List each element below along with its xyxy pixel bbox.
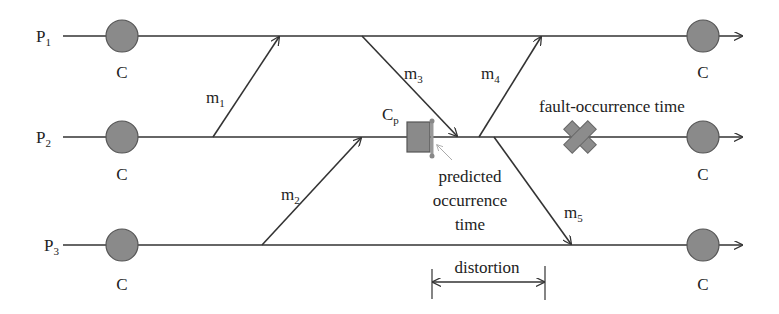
predicted-occurrence-label-line3: time (455, 215, 485, 234)
predicted-pointer-arrow (437, 145, 452, 160)
checkpoint-label: C (697, 165, 708, 184)
fault-occurrence-label: fault-occurrence time (539, 97, 685, 116)
checkpoint-label: C (116, 275, 127, 294)
predicted-time-dot-top (430, 119, 435, 124)
message-label-m2: m2 (281, 185, 300, 206)
message-m3-arrow (362, 36, 457, 136)
predicted-time-dot-bottom (430, 154, 435, 159)
message-label-m4: m4 (481, 64, 500, 85)
checkpoint-p2-right (687, 121, 719, 153)
message-m2-arrow (262, 138, 361, 245)
distortion-label: distortion (454, 258, 520, 277)
checkpoint-label: C (697, 63, 708, 82)
predicted-occurrence-label-line2: occurrence (433, 191, 508, 210)
message-label-m1: m1 (206, 88, 225, 109)
checkpoint-p3-right (687, 229, 719, 261)
checkpoint-p1-left (106, 20, 138, 52)
predicted-checkpoint-square (407, 122, 430, 152)
predicted-checkpoint-label: Cp (382, 105, 399, 126)
checkpoint-label: C (697, 275, 708, 294)
checkpoint-p2-left (106, 121, 138, 153)
process-label-p3: P3 (44, 236, 59, 257)
checkpoint-p1-right (687, 20, 719, 52)
process-label-p2: P2 (36, 128, 51, 149)
checkpoint-label: C (116, 165, 127, 184)
process-timeline-diagram: P1 P2 P3 C C C C C C m1 m2 m3 m4 m5 Cp p… (0, 0, 779, 314)
checkpoint-p3-left (106, 229, 138, 261)
message-label-m5: m5 (564, 203, 583, 224)
message-m1-arrow (213, 37, 279, 137)
process-label-p1: P1 (36, 27, 51, 48)
message-label-m3: m3 (404, 64, 423, 85)
checkpoint-label: C (116, 63, 127, 82)
message-m4-arrow (479, 37, 541, 137)
predicted-occurrence-label-line1: predicted (438, 167, 502, 186)
